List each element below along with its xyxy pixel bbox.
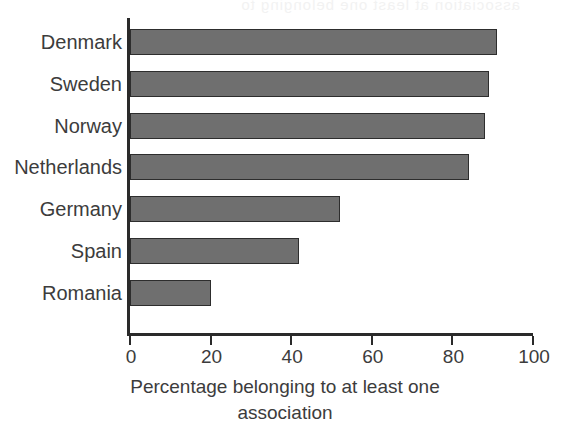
- bar-category-label: Sweden: [50, 71, 122, 97]
- bar-row: Norway: [0, 113, 570, 139]
- bar-category-label: Spain: [71, 238, 122, 264]
- bar-row: Spain: [0, 238, 570, 264]
- x-axis-tick-label: 0: [101, 345, 161, 369]
- x-axis-tick: [129, 336, 131, 345]
- bar-row: Germany: [0, 196, 570, 222]
- bar-category-label: Germany: [40, 196, 122, 222]
- bar: [130, 196, 340, 222]
- x-axis-tick: [451, 336, 453, 345]
- bar: [130, 280, 211, 306]
- bar: [130, 154, 469, 180]
- x-axis-tick-label: 80: [423, 345, 483, 369]
- x-axis-tick: [532, 336, 534, 345]
- x-axis-tick: [371, 336, 373, 345]
- bar: [130, 29, 497, 55]
- bar-row: Denmark: [0, 29, 570, 55]
- bar-category-label: Norway: [54, 113, 122, 139]
- x-axis-tick-label: 40: [262, 345, 322, 369]
- x-axis-title: Percentage belonging to at least one ass…: [70, 374, 500, 426]
- x-axis-tick-label: 100: [504, 345, 564, 369]
- bar-row: Sweden: [0, 71, 570, 97]
- x-axis-tick: [210, 336, 212, 345]
- x-axis-tick: [290, 336, 292, 345]
- x-axis-tick-label: 60: [343, 345, 403, 369]
- bar: [130, 238, 299, 264]
- bar: [130, 113, 485, 139]
- x-axis-title-line-2: association: [237, 402, 332, 423]
- bar-row: Romania: [0, 280, 570, 306]
- bar-category-label: Denmark: [41, 29, 122, 55]
- bar-category-label: Romania: [42, 280, 122, 306]
- bar-row: Netherlands: [0, 154, 570, 180]
- x-axis-tick-label: 20: [182, 345, 242, 369]
- plot-area: 020406080100 DenmarkSwedenNorwayNetherla…: [0, 0, 570, 340]
- x-axis-line: [127, 333, 533, 336]
- bar: [130, 71, 489, 97]
- bar-chart-figure: association at least one belonging to 02…: [0, 0, 570, 435]
- x-axis-title-line-1: Percentage belonging to at least one: [130, 376, 440, 397]
- bar-category-label: Netherlands: [14, 154, 122, 180]
